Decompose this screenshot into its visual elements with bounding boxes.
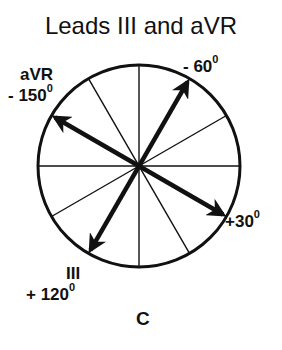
lead-vector-arrow bbox=[139, 166, 223, 215]
lead-vector-arrow bbox=[55, 118, 139, 167]
pos120-angle-label: + 1200 bbox=[26, 286, 75, 303]
lead-vector-arrow bbox=[139, 82, 188, 166]
panel-label: C bbox=[136, 309, 150, 328]
neg60-angle-label: - 600 bbox=[183, 58, 218, 75]
avr-lead-label: aVR bbox=[20, 66, 53, 83]
avr-angle-label: - 1500 bbox=[8, 87, 53, 104]
pos30-angle-label: +300 bbox=[225, 213, 260, 230]
lead-vector-arrow bbox=[91, 166, 140, 250]
iii-lead-label: III bbox=[66, 265, 80, 282]
